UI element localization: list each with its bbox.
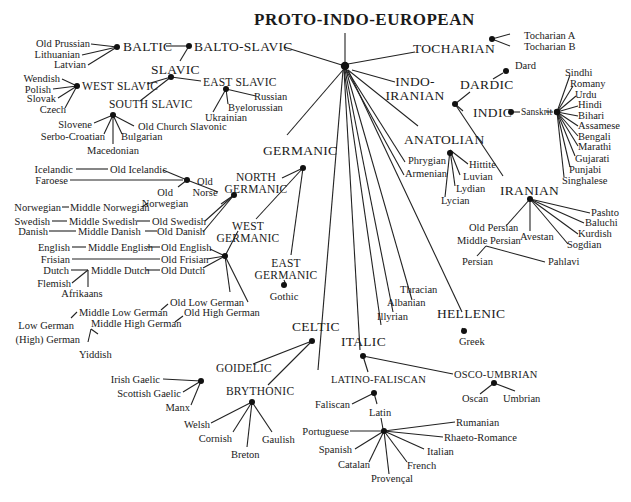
branch-indo-iranian: INDO- IRANIAN	[385, 75, 444, 103]
branch-balto-slavic: BALTO-SLAVIC	[194, 40, 293, 54]
lang-russian: Russian	[254, 92, 287, 103]
lang-provencal: Provençal	[371, 474, 413, 485]
branch-west-germanic: WEST GERMANIC	[217, 220, 280, 244]
lang-old-english: Old English	[161, 243, 211, 254]
lang-slovak: Slovak	[27, 94, 56, 105]
branch-dardic: DARDIC	[460, 78, 514, 92]
lang-dard: Dard	[515, 61, 536, 72]
lang-serbo-croatian: Serbo-Croatian	[41, 132, 105, 143]
branch-indic: INDIC	[473, 106, 512, 120]
lang-lycian: Lycian	[441, 196, 470, 207]
lang-persian: Persian	[462, 257, 493, 268]
lang-spanish: Spanish	[319, 445, 352, 456]
lang-old-frisian: Old Frisian	[161, 255, 209, 266]
lang-middle-high-german: Middle High German	[91, 319, 181, 330]
lang-middle-low-german: Middle Low German	[79, 308, 168, 319]
lang-high-german: (High) German	[16, 335, 80, 346]
branch-italic: ITALIC	[341, 335, 386, 349]
lang-scottish-gaelic: Scottish Gaelic	[117, 389, 181, 400]
lang-frisian: Frisian	[41, 255, 70, 266]
lang-icelandic: Icelandic	[35, 165, 73, 176]
branch-osco-umbrian: OSCO-UMBRIAN	[454, 370, 538, 381]
lang-rhaeto-romance: Rhaeto-Romance	[444, 433, 517, 444]
lang-old-icelandic: Old Icelandic	[110, 165, 167, 176]
lang-macedonian: Macedonian	[87, 146, 139, 157]
lang-pahlavi: Pahlavi	[548, 257, 580, 268]
lang-cornish: Cornish	[199, 434, 232, 445]
lang-wendish: Wendish	[24, 74, 60, 85]
lang-old-prussian: Old Prussian	[36, 39, 90, 50]
branch-germanic: GERMANIC	[263, 144, 337, 158]
lang-middle-dutch: Middle Dutch	[91, 266, 150, 277]
lang-gujarati: Gujarati	[575, 154, 609, 165]
lang-low-german: Low German	[18, 321, 74, 332]
lang-tocharian-a: Tocharian A	[524, 31, 575, 42]
lang-oscan: Oscan	[462, 394, 488, 405]
lang-sindhi: Sindhi	[565, 68, 592, 79]
lang-hittite: Hittite	[469, 160, 496, 171]
language-family-tree: PROTO-INDO-EUROPEAN BALTO-SLAVIC BALTIC …	[0, 0, 631, 502]
lang-sanskrit: Sanskrit	[521, 108, 552, 118]
lang-italian: Italian	[427, 447, 454, 458]
lang-illyrian: Illyrian	[377, 312, 408, 323]
lang-kurdish: Kurdish	[578, 229, 612, 240]
lang-faroese: Faroese	[35, 176, 68, 187]
lang-gothic: Gothic	[270, 292, 299, 303]
lang-rumanian: Rumanian	[456, 418, 499, 429]
lang-middle-persian: Middle Persian	[457, 236, 521, 247]
lang-phrygian: Phrygian	[408, 156, 446, 167]
branch-brythonic: BRYTHONIC	[226, 386, 294, 398]
lang-albanian: Albanian	[387, 298, 426, 309]
lang-yiddish: Yiddish	[79, 350, 112, 361]
lang-luvian: Luvian	[463, 172, 493, 183]
lang-catalan: Catalan	[338, 460, 370, 471]
lang-gaulish: Gaulish	[262, 435, 295, 446]
lang-armenian: Armenian	[405, 169, 447, 180]
lang-old-danish: Old Danish	[157, 227, 205, 238]
branch-east-slavic: EAST SLAVIC	[203, 77, 277, 89]
branch-old-norse: Old Norse	[192, 176, 217, 198]
lang-old-persian: Old Persian	[469, 223, 518, 234]
branch-slavic: SLAVIC	[151, 63, 200, 77]
lang-latvian: Latvian	[54, 60, 86, 71]
lang-romany: Romany	[570, 79, 606, 90]
branch-south-slavic: SOUTH SLAVIC	[109, 99, 193, 111]
lang-avestan: Avestan	[520, 232, 554, 243]
lang-umbrian: Umbrian	[503, 394, 540, 405]
lang-tocharian-b: Tocharian B	[524, 42, 575, 53]
lang-dutch: Dutch	[43, 266, 69, 277]
branch-east-germanic: EAST GERMANIC	[255, 257, 318, 281]
lang-old-church-slavonic: Old Church Slavonic	[138, 122, 227, 133]
branch-anatolian: ANATOLIAN	[404, 133, 484, 147]
lang-sogdian: Sogdian	[567, 240, 601, 251]
branch-baltic: BALTIC	[123, 40, 172, 54]
branch-goidelic: GOIDELIC	[216, 363, 272, 375]
lang-danish: Danish	[18, 227, 48, 238]
lang-english: English	[38, 243, 70, 254]
lang-czech: Czech	[40, 105, 66, 116]
lang-slovene: Slovene	[58, 120, 92, 131]
lang-old-dutch: Old Dutch	[161, 266, 205, 277]
lang-bulgarian: Bulgarian	[121, 132, 162, 143]
branch-west-slavic: WEST SLAVIC	[82, 81, 158, 93]
lang-afrikaans: Afrikaans	[61, 289, 102, 300]
lang-thracian: Thracian	[400, 285, 437, 296]
lang-old-high-german: Old High German	[184, 308, 260, 319]
lang-middle-danish: Middle Danish	[78, 227, 141, 238]
branch-tocharian: TOCHARIAN	[413, 42, 495, 56]
lang-breton: Breton	[231, 450, 260, 461]
branch-iranian: IRANIAN	[500, 184, 559, 198]
branch-hellenic: HELLENIC	[437, 307, 505, 321]
lang-greek: Greek	[459, 337, 485, 348]
lang-punjabi: Punjabi	[569, 165, 601, 176]
lang-baluchi: Baluchi	[585, 218, 618, 229]
lang-latin: Latin	[369, 408, 391, 419]
lang-norwegian: Norwegian	[14, 203, 61, 214]
lang-welsh: Welsh	[184, 420, 210, 431]
lang-middle-norwegian: Middle Norwegian	[70, 203, 150, 214]
lang-french: French	[407, 461, 436, 472]
lang-manx: Manx	[166, 403, 191, 414]
lang-middle-english: Middle English	[88, 243, 153, 254]
lang-faliscan: Faliscan	[315, 400, 350, 411]
lang-hindi: Hindi	[578, 100, 602, 111]
